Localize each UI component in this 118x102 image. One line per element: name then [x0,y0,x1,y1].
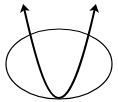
parabola-left-branch [24,8,59,98]
diagram-canvas [0,0,118,102]
diagram-svg [0,0,118,102]
ellipse-shape [6,29,112,99]
parabola-right-branch [59,8,95,98]
